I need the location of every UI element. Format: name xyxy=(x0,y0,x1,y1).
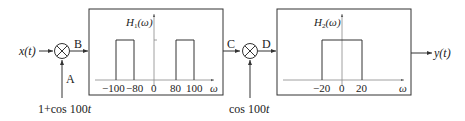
input-signal-label: x(t) xyxy=(18,44,36,58)
filter-1-plot: H1(ω) −100 −80 0 80 100 ω xyxy=(95,14,218,94)
filter-2-tick-0: 0 xyxy=(339,82,345,94)
node-b-label: B xyxy=(74,37,82,51)
carrier-1-label: 1+cos 100t xyxy=(38,102,92,116)
output-signal-label: y(t) xyxy=(433,46,451,60)
filter-2-title: H2(ω) xyxy=(313,16,341,30)
filter-1-tick-80: 80 xyxy=(170,82,182,94)
node-a-label: A xyxy=(66,72,75,86)
filter-2-tick-20: 20 xyxy=(356,82,368,94)
multiplier-2-icon xyxy=(243,44,258,59)
multiplier-1-icon xyxy=(55,44,70,59)
filter-2-tick-neg20: −20 xyxy=(313,82,331,94)
carrier-2-label: cos 100t xyxy=(229,102,270,116)
node-c-label: C xyxy=(227,37,235,51)
filter-2-axis-label: ω xyxy=(399,82,407,94)
filter-1-tick-0: 0 xyxy=(151,82,157,94)
filter-2-plot: H2(ω) −20 0 20 ω xyxy=(283,14,407,94)
filter-1-passband-positive xyxy=(176,40,194,80)
node-d-label: D xyxy=(262,37,271,51)
filter-1-passband-negative xyxy=(116,40,134,80)
filter-1-axis-label: ω xyxy=(210,82,218,94)
filter-1-tick-neg80: −80 xyxy=(126,82,144,94)
block-diagram: x(t) A 1+cos 100t B H1(ω) −100 −80 0 80 … xyxy=(0,0,465,121)
filter-1-tick-100: 100 xyxy=(186,82,203,94)
filter-1-tick-neg100: −100 xyxy=(102,82,125,94)
filter-1-title: H1(ω) xyxy=(125,16,153,30)
